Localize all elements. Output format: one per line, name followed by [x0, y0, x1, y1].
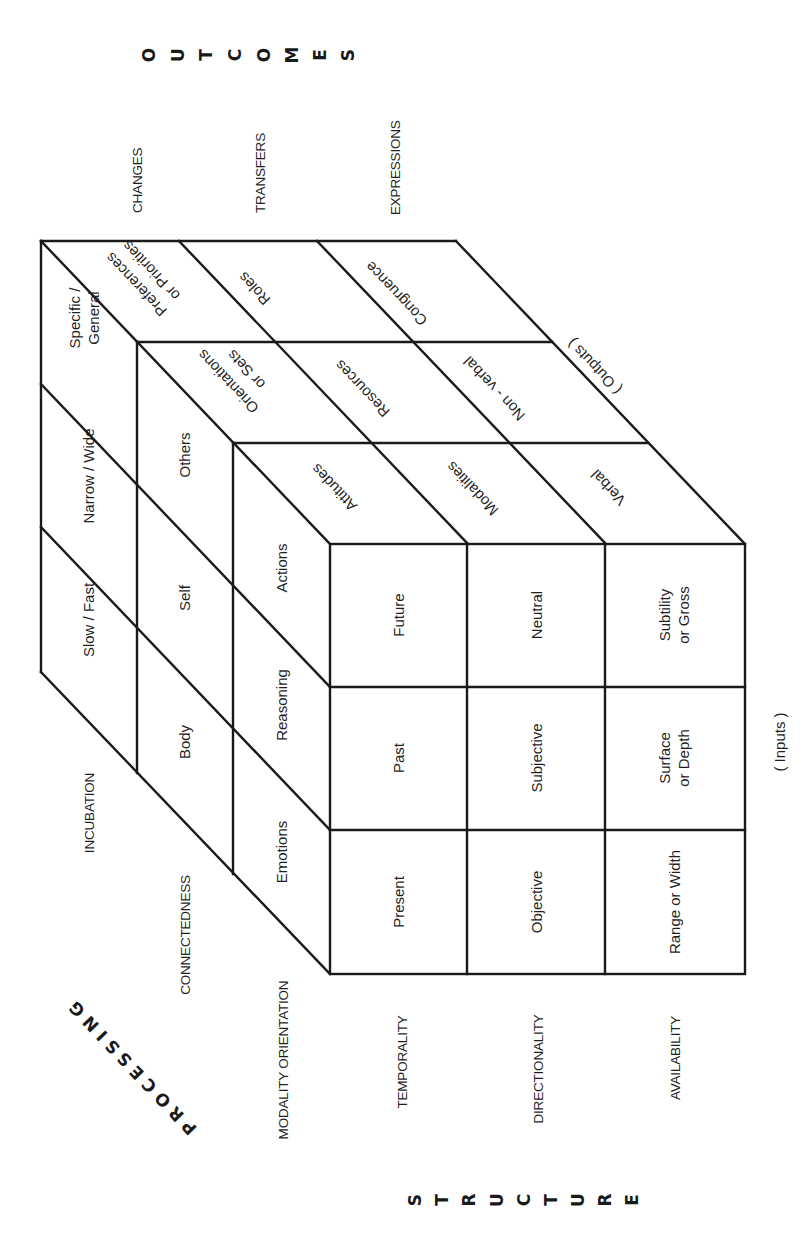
structure-label-directionality: DIRECTIONALITY [531, 1014, 546, 1123]
outcomes-label-changes: CHANGES [130, 147, 145, 213]
structure-title: S T R U C T U R E [405, 1193, 642, 1207]
top-diagonal-1 [179, 241, 468, 544]
side-cell-specific-line1: Specific / [66, 287, 83, 349]
outcomes-letter: C [225, 49, 245, 61]
processing-title: PROCESSING [61, 993, 201, 1139]
front-cell-range: Range or Width [666, 850, 683, 954]
front-cell-neutral: Neutral [528, 591, 545, 639]
cube-diagram: Future Neutral Subtility or Gross Past S… [0, 0, 810, 1242]
outcomes-axis: O U T C O M E S CHANGES TRANSFERS EXPRES… [130, 47, 625, 399]
top-cell-non-verbal: Non - verbal [460, 353, 529, 424]
front-face: Future Neutral Subtility or Gross Past S… [390, 586, 692, 954]
side-cell-slow-fast: Slow / Fast [80, 582, 97, 657]
front-cell-future: Future [390, 593, 407, 636]
top-cell-modalities: Modalities [443, 458, 502, 519]
processing-axis: PROCESSING INCUBATION CONNECTEDNESS MODA… [61, 773, 291, 1140]
front-cell-present: Present [390, 875, 407, 928]
structure-letter: S [405, 1194, 425, 1206]
front-cell-subtility-line2: or Gross [675, 586, 692, 644]
outcomes-letter: T [196, 49, 216, 61]
top-cell-verbal: Verbal [587, 467, 629, 510]
structure-letter: T [541, 1194, 561, 1206]
structure-letter: E [622, 1194, 642, 1206]
side-cell-self: Self [176, 584, 193, 611]
outputs-annotation: ( Outputs ) [563, 335, 624, 398]
outcomes-label-transfers: TRANSFERS [253, 133, 268, 213]
side-cell-body: Body [176, 724, 193, 759]
side-cell-others: Others [176, 432, 193, 477]
top-cell-roles: Roles [235, 269, 274, 309]
processing-label-modality-orientation: MODALITY ORIENTATION [276, 981, 291, 1140]
processing-label-incubation: INCUBATION [82, 773, 97, 853]
side-cell-specific-line2: General [85, 291, 102, 344]
side-cell-actions: Actions [273, 543, 290, 592]
top-cell-congruence: Congruence [362, 258, 431, 329]
structure-label-temporality: TEMPORALITY [395, 1015, 410, 1108]
outcomes-letter: M [282, 47, 302, 64]
front-cell-past: Past [390, 742, 407, 773]
structure-letter: R [459, 1193, 479, 1206]
structure-axis: TEMPORALITY DIRECTIONALITY AVAILABILITY … [395, 712, 788, 1207]
side-cell-reasoning: Reasoning [273, 669, 290, 741]
front-cell-surface-line1: Surface [656, 732, 673, 784]
inputs-annotation: ( Inputs ) [771, 712, 788, 771]
structure-letter: T [432, 1194, 452, 1206]
outcomes-letter: O [139, 48, 159, 62]
front-cell-subtility-line1: Subtility [656, 588, 673, 641]
side-cell-narrow-wide: Narrow / Wide [80, 428, 97, 523]
outcomes-letter: U [168, 48, 188, 62]
front-cell-surface-line2: or Depth [675, 729, 692, 787]
outcomes-letter: S [338, 49, 358, 61]
top-cell-attitudes: Attitudes [308, 461, 361, 515]
structure-letter: C [514, 1194, 534, 1206]
outcomes-title: O U T C O M E S [139, 47, 358, 64]
front-cell-subjective: Subjective [528, 723, 545, 792]
side-cell-emotions: Emotions [273, 821, 290, 884]
outcomes-label-expressions: EXPRESSIONS [388, 120, 403, 215]
structure-letter: U [487, 1193, 507, 1207]
structure-label-availability: AVAILABILITY [668, 1016, 683, 1100]
structure-letter: U [568, 1193, 588, 1207]
outcomes-letter: O [254, 48, 274, 62]
structure-letter: R [595, 1193, 615, 1206]
outcomes-letter: E [310, 49, 330, 61]
processing-label-connectedness: CONNECTEDNESS [178, 875, 193, 995]
front-cell-objective: Objective [528, 871, 545, 934]
